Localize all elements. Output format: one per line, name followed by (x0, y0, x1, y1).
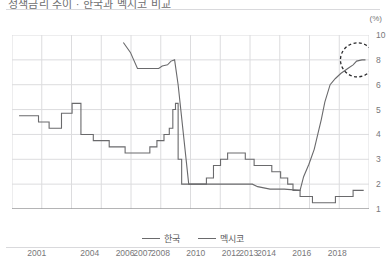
vertical-gridlines (12, 35, 369, 209)
top-divider (6, 9, 380, 10)
chart-title-clipped: 정책금리 추이 · 한국과 멕시코 비교 (0, 0, 386, 9)
chart-title-text: 정책금리 추이 · 한국과 멕시코 비교 (8, 0, 171, 9)
series-line-korea (19, 103, 364, 202)
chart-canvas (12, 35, 369, 209)
legend-label-mexico: 멕시코 (220, 232, 244, 245)
y-axis-tick-label: 6 (376, 80, 386, 90)
y-axis-tick-label: 2 (376, 179, 386, 189)
legend-item-korea[interactable]: 한국 (142, 232, 180, 245)
x-axis-tick-label: 2001 (20, 248, 54, 257)
x-axis-tick-label: 2008 (143, 248, 177, 257)
y-axis-tick-label: 3 (376, 154, 386, 164)
y-axis-tick-label: 8 (376, 55, 386, 65)
x-axis-tick-label: 2014 (249, 248, 283, 257)
x-axis-tick-label: 2016 (285, 248, 319, 257)
series-line-mexico (123, 42, 365, 190)
y-axis-tick-label: 4 (376, 129, 386, 139)
legend-line-swatch-mexico (198, 238, 216, 239)
bottom-divider (6, 247, 380, 248)
y-axis-tick-label: 10 (376, 30, 386, 40)
x-axis-tick-label: 2018 (320, 248, 354, 257)
y-axis-tick-label: 1 (376, 204, 386, 214)
legend-item-mexico[interactable]: 멕시코 (198, 232, 244, 245)
y-axis-tick-label: 5 (376, 105, 386, 115)
chart-legend: 한국 멕시코 (0, 231, 386, 245)
x-axis-tick-label: 2010 (179, 248, 213, 257)
legend-label-korea: 한국 (164, 232, 180, 245)
y-axis-unit-label: (%) (370, 14, 382, 23)
plot-area: 108654321 200120042006200720082010201220… (12, 35, 369, 209)
x-axis-tick-label: 2004 (73, 248, 107, 257)
legend-line-swatch-korea (142, 238, 160, 239)
chart-figure: 정책금리 추이 · 한국과 멕시코 비교 (%) 108654321 20012… (0, 0, 386, 257)
